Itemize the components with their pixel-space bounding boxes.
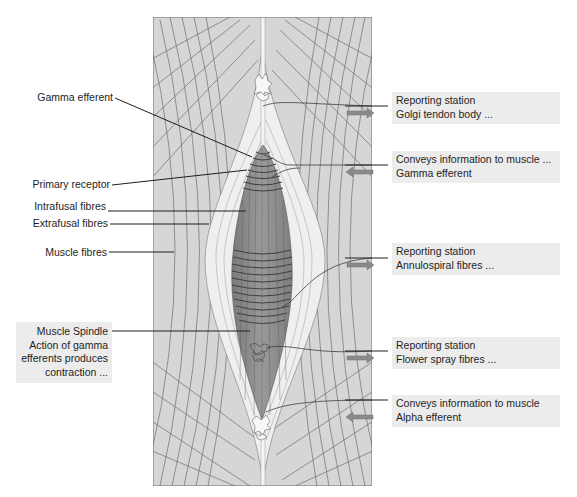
- box-alpha-line-2: Alpha efferent: [396, 411, 554, 425]
- muscle-spindle-line-4: contraction ...: [20, 366, 108, 380]
- box-flower-spray-line-1: Reporting station: [396, 339, 554, 353]
- label-primary-receptor: Primary receptor: [32, 178, 110, 191]
- box-annulospiral: Reporting station Annulospiral fibres ..…: [392, 243, 560, 275]
- muscle-spindle-box: Muscle Spindle Action of gamma efferents…: [16, 322, 112, 383]
- muscle-spindle-line-3: efferents produces: [20, 352, 108, 366]
- box-gamma-efferent: Conveys information to muscle ... Gamma …: [392, 151, 560, 183]
- muscle-spindle-diagram: Gamma efferent Primary receptor Intrafus…: [0, 0, 577, 497]
- box-golgi-tendon: Reporting station Golgi tendon body ...: [392, 92, 560, 124]
- box-gamma-line-1: Conveys information to muscle ...: [396, 153, 554, 167]
- box-annulospiral-line-1: Reporting station: [396, 245, 554, 259]
- box-alpha-line-1: Conveys information to muscle: [396, 397, 554, 411]
- muscle-spindle-line-1: Muscle Spindle: [20, 325, 108, 339]
- box-alpha-efferent: Conveys information to muscle Alpha effe…: [392, 395, 560, 427]
- box-golgi-line-2: Golgi tendon body ...: [396, 108, 554, 122]
- muscle-spindle-line-2: Action of gamma: [20, 339, 108, 353]
- label-extrafusal-fibres: Extrafusal fibres: [33, 217, 108, 230]
- muscle-fibres-art: [150, 17, 375, 486]
- label-muscle-fibres: Muscle fibres: [45, 246, 107, 259]
- box-gamma-line-2: Gamma efferent: [396, 167, 554, 181]
- label-gamma-efferent: Gamma efferent: [37, 91, 113, 104]
- box-flower-spray-line-2: Flower spray fibres ...: [396, 353, 554, 367]
- box-annulospiral-line-2: Annulospiral fibres ...: [396, 259, 554, 273]
- box-flower-spray: Reporting station Flower spray fibres ..…: [392, 337, 560, 369]
- label-intrafusal-fibres: Intrafusal fibres: [34, 200, 106, 213]
- box-golgi-line-1: Reporting station: [396, 94, 554, 108]
